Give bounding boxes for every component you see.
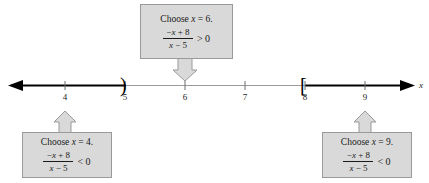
callout-9-expression: −x + 8 x − 5 < 0 [343, 150, 390, 173]
callout-4-fraction: −x + 8 x − 5 [43, 150, 73, 173]
callout-4-expression: −x + 8 x − 5 < 0 [43, 150, 90, 173]
tick-label-6: 6 [177, 92, 193, 102]
number-line-figure: ) [ 4 5 6 7 8 9 x Choose x = 6. −x + 8 x… [0, 0, 429, 183]
tick-label-5: 5 [117, 92, 133, 102]
callout-4-numerator: −x + 8 [45, 150, 72, 160]
callout-6-denominator: x − 5 [167, 40, 189, 50]
callout-4-heading: Choose x = 4. [41, 137, 93, 148]
callout-6-numerator: −x + 8 [164, 27, 191, 37]
axis-variable-label: x [419, 80, 423, 90]
callout-6-heading: Choose x = 6. [160, 14, 212, 25]
callout-6-comparison: > 0 [197, 33, 210, 44]
fraction-bar [343, 161, 373, 162]
callout-choose-9: Choose x = 9. −x + 8 x − 5 < 0 [322, 132, 412, 178]
fraction-bar [163, 38, 193, 39]
tick-label-8: 8 [297, 92, 313, 102]
callout-9-denominator: x − 5 [347, 163, 369, 173]
tick-label-7: 7 [237, 92, 253, 102]
callout-4-comparison: < 0 [77, 156, 90, 167]
callout-9-numerator: −x + 8 [345, 150, 372, 160]
tick-label-9: 9 [357, 92, 373, 102]
callout-9-fraction: −x + 8 x − 5 [343, 150, 373, 173]
fraction-bar [43, 161, 73, 162]
callout-6-expression: −x + 8 x − 5 > 0 [163, 27, 210, 50]
callout-6-fraction: −x + 8 x − 5 [163, 27, 193, 50]
callout-9-comparison: < 0 [377, 156, 390, 167]
callout-choose-4: Choose x = 4. −x + 8 x − 5 < 0 [22, 132, 112, 178]
callout-9-heading: Choose x = 9. [341, 137, 393, 148]
tick-label-4: 4 [57, 92, 73, 102]
callout-choose-6: Choose x = 6. −x + 8 x − 5 > 0 [140, 4, 233, 59]
callout-4-denominator: x − 5 [47, 163, 69, 173]
